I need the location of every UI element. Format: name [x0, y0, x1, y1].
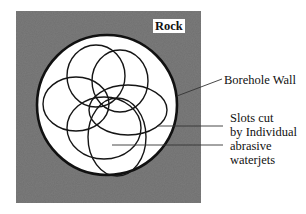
borehole-wall-label: Borehole Wall — [224, 73, 296, 87]
slots-label-line-2: by Individual — [230, 125, 297, 139]
slots-label-line-4: waterjets — [230, 153, 297, 167]
slots-label: Slots cut by Individual abrasive waterje… — [230, 111, 297, 167]
slots-label-line-1: Slots cut — [230, 111, 297, 125]
rock-label: Rock — [153, 19, 185, 33]
slots-label-line-3: abrasive — [230, 139, 297, 153]
